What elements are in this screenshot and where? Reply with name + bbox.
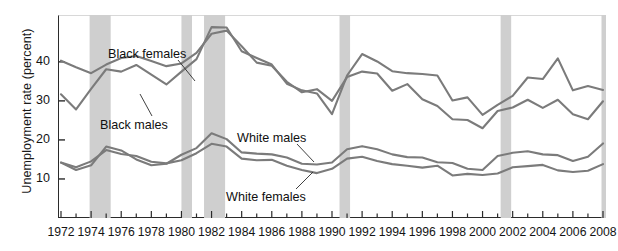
x-tick-marks	[61, 211, 603, 218]
series-line-white-females	[61, 144, 603, 176]
leader-line	[140, 94, 152, 116]
chart-svg	[58, 15, 606, 218]
leader-line	[296, 172, 313, 189]
y-tick-label: 30	[22, 93, 50, 107]
recession-band	[340, 15, 351, 218]
y-tick-label: 10	[22, 171, 50, 185]
black-males-label: Black males	[100, 118, 168, 132]
recession-band	[601, 15, 606, 218]
recession-band	[90, 15, 111, 218]
x-tick-label: 2008	[583, 225, 618, 239]
black-females-label: Black females	[108, 47, 186, 61]
plot-area	[58, 15, 606, 218]
recession-bands	[90, 15, 606, 218]
y-tick-label: 40	[22, 54, 50, 68]
recession-band	[501, 15, 512, 218]
series-line-white-males	[61, 133, 603, 170]
leader-line	[297, 144, 314, 162]
recession-band	[204, 15, 225, 218]
white-males-label: White males	[237, 131, 306, 145]
recession-band	[181, 15, 192, 218]
y-tick-label: 20	[22, 132, 50, 146]
chart-root: Unemployment rate (percent) 10203040 197…	[0, 0, 618, 251]
y-tick-marks	[58, 62, 65, 179]
white-females-label: White females	[226, 190, 306, 204]
